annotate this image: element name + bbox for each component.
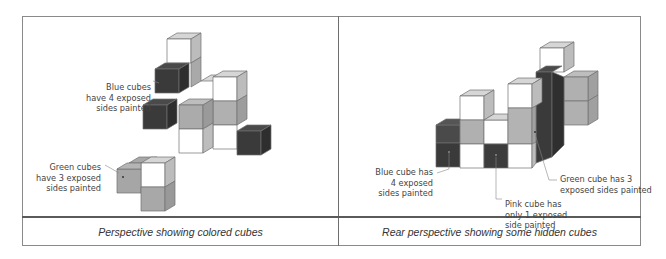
cube-middle-gray [179, 99, 213, 129]
callout-line: sides painted [23, 183, 101, 194]
callout-line: Blue cube has [339, 167, 433, 178]
callout-line: Pink cube has [505, 199, 567, 210]
cube-top-white [167, 33, 201, 63]
callout-line: sides painted [61, 103, 151, 114]
front-perspective-diagram: .e { stroke: #707070; stroke-width: 0.7;… [23, 17, 338, 216]
cube-blue-right [237, 125, 271, 155]
callout-line: have 3 exposed [23, 173, 101, 184]
cube-right-tower-white-bottom [213, 125, 237, 149]
callout-line: Green cube has 3 [560, 174, 652, 185]
caption-front-perspective: Perspective showing colored cubes [23, 218, 338, 246]
cube-green-front-left [117, 163, 141, 193]
cube-back-row-gray [564, 71, 598, 125]
callout-green-cube: Green cube has 3 exposed sides painted [560, 174, 652, 195]
cube-middle-tower-white [508, 78, 542, 108]
callout-line: sides painted [339, 188, 433, 199]
cube-blue-upper [155, 63, 189, 93]
cube-left-tower-white [460, 90, 494, 120]
caption-rear-perspective: Rear perspective showing some hidden cub… [339, 218, 640, 246]
callout-line: exposed sides painted [560, 185, 652, 196]
callout-line: Blue cubes [61, 82, 151, 93]
rear-perspective-diagram: .e { stroke: #707070; stroke-width: 0.7;… [339, 17, 640, 216]
callout-line: 4 exposed [339, 178, 433, 189]
callout-green-cubes: Green cubes have 3 exposed sides painted [23, 162, 101, 194]
cube-front-white [141, 157, 175, 187]
callout-blue-cube: Blue cube has 4 exposed sides painted [339, 167, 433, 199]
callout-blue-cubes: Blue cubes have 4 exposed sides painted [61, 82, 151, 114]
callout-line: have 4 exposed [61, 93, 151, 104]
cube-right-tower-white [213, 71, 247, 101]
cube-row1 [436, 142, 536, 168]
callout-line: Green cubes [23, 162, 101, 173]
